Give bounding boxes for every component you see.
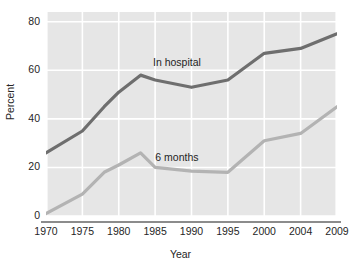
y-axis-tick-label: 0 <box>20 209 40 221</box>
x-axis-tick-label: 1985 <box>143 225 166 237</box>
y-axis-title: Percent <box>4 72 16 132</box>
y-axis-tick-label: 60 <box>20 63 40 75</box>
x-axis-tick-label: 1975 <box>71 225 94 237</box>
x-axis-tick-label: 1990 <box>180 225 203 237</box>
x-axis-tick-label: 2000 <box>253 225 276 237</box>
y-axis-tick-label: 40 <box>20 112 40 124</box>
x-axis-tick-label: 1995 <box>216 225 239 237</box>
x-axis-tick-label: 1970 <box>34 225 57 237</box>
series-label: In hospital <box>153 56 201 68</box>
y-axis-tick-label: 20 <box>20 160 40 172</box>
series-label: 6 months <box>155 151 198 163</box>
x-axis-tick-label: 2004 <box>289 225 312 237</box>
x-axis-title: Year <box>0 248 361 260</box>
x-axis-line <box>41 221 341 223</box>
x-axis-tick-label: 2009 <box>325 225 348 237</box>
data-series-lines <box>46 12 337 216</box>
chart-figure: 020406080 197019751980198519901995200020… <box>0 0 361 275</box>
x-axis-tick-label: 1980 <box>107 225 130 237</box>
y-axis-tick-label: 80 <box>20 15 40 27</box>
plot-area <box>46 12 337 216</box>
